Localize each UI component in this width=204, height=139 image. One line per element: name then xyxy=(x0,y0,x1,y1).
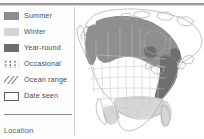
occasional-dots-swatch-icon xyxy=(4,60,19,68)
date-seen-outline-swatch-icon xyxy=(4,92,19,101)
legend-item-label: Summer xyxy=(24,12,52,20)
legend-item-ocean-range[interactable]: Ocean range xyxy=(4,73,78,87)
range-map-panel: Summer Winter Year-round Occasional Ocea… xyxy=(0,0,204,139)
legend-item-label: Winter xyxy=(24,28,46,36)
legend-item-winter[interactable]: Winter xyxy=(4,25,78,39)
legend-item-label: Year-round xyxy=(24,44,61,52)
winter-swatch-icon xyxy=(4,28,19,36)
legend-item-label: Date seen xyxy=(24,92,58,100)
legend-footer-divider xyxy=(4,114,72,115)
legend-item-label: Ocean range xyxy=(24,76,67,84)
location-label: Location xyxy=(4,126,34,135)
legend-item-year-round[interactable]: Year-round xyxy=(4,41,78,55)
ocean-range-hatch-swatch-icon xyxy=(4,76,19,84)
year-round-swatch-icon xyxy=(4,44,19,52)
legend-item-occasional[interactable]: Occasional xyxy=(4,57,78,71)
legend-item-date-seen[interactable]: Date seen xyxy=(4,89,78,103)
legend-item-label: Occasional xyxy=(24,60,61,68)
summer-swatch-icon xyxy=(4,12,19,20)
north-america-range-map[interactable] xyxy=(74,7,204,135)
map-svg xyxy=(74,7,204,135)
top-divider-shadow xyxy=(0,5,204,6)
legend-item-summer[interactable]: Summer xyxy=(4,9,78,23)
map-legend: Summer Winter Year-round Occasional Ocea… xyxy=(4,9,78,105)
